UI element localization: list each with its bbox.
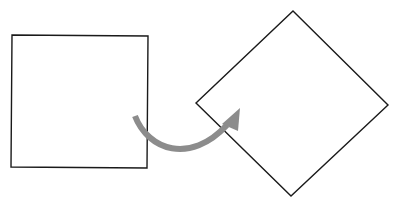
rotation-diagram: [0, 0, 401, 209]
background: [0, 0, 401, 209]
